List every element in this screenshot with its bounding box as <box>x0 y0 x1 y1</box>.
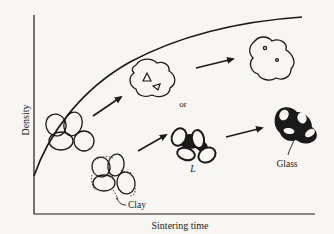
clay-label: Clay <box>128 200 146 210</box>
clay-compact <box>90 153 137 196</box>
glass-leader-line <box>288 140 294 155</box>
dense-particle <box>250 37 294 80</box>
arrow-1 <box>93 97 121 116</box>
sintering-diagram: Density Sintering time or C <box>0 0 334 234</box>
y-axis-label: Density <box>20 104 31 135</box>
or-label: or <box>179 99 187 109</box>
x-axis-label: Sintering time <box>152 220 210 231</box>
density-curve <box>34 17 302 176</box>
intermediate-particle <box>130 59 175 96</box>
liquid-phase-particles <box>169 126 218 166</box>
arrow-4 <box>226 128 262 137</box>
glass-label: Glass <box>276 159 297 169</box>
liquid-label: L <box>189 164 195 174</box>
arrow-2 <box>196 59 233 68</box>
initial-compact <box>43 110 94 151</box>
arrow-3 <box>138 135 166 151</box>
clay-leader-line <box>117 197 126 205</box>
glass-bonded-particles <box>275 107 317 143</box>
